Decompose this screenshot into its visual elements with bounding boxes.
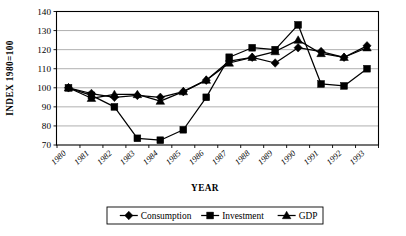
- legend-label-investment: Investment: [222, 211, 264, 221]
- data-point-investment-1984: [157, 137, 164, 144]
- y-tick-label-70: 70: [42, 140, 52, 150]
- data-point-investment-1985: [180, 126, 187, 133]
- chart-legend: ConsumptionInvestmentGDP: [107, 207, 323, 224]
- y-tick-label-100: 100: [37, 83, 51, 93]
- chart-figure: 708090100110120130140 198019811982198319…: [0, 0, 406, 236]
- y-tick-label-140: 140: [37, 7, 51, 17]
- data-point-investment-1988: [249, 44, 256, 51]
- data-point-investment-1990: [295, 21, 302, 28]
- y-tick-label-80: 80: [42, 121, 52, 131]
- data-point-investment-1993: [364, 65, 371, 72]
- legend-label-gdp: GDP: [299, 211, 318, 221]
- data-point-investment-1991: [318, 81, 325, 88]
- chart-background: [0, 0, 406, 236]
- y-tick-label-120: 120: [37, 45, 51, 55]
- y-axis-label: INDEX 1980=100: [5, 40, 15, 116]
- x-axis-label: YEAR: [191, 183, 219, 193]
- data-point-investment-1983: [134, 135, 141, 142]
- y-tick-label-130: 130: [37, 26, 51, 36]
- data-point-investment-1982: [111, 103, 118, 110]
- index-line-chart: 708090100110120130140 198019811982198319…: [0, 0, 406, 236]
- y-tick-label-110: 110: [38, 64, 52, 74]
- y-tick-label-90: 90: [42, 102, 52, 112]
- legend-label-consumption: Consumption: [141, 211, 192, 221]
- legend-marker-investment: [207, 212, 214, 219]
- data-point-investment-1992: [341, 82, 348, 89]
- data-point-investment-1986: [203, 94, 210, 101]
